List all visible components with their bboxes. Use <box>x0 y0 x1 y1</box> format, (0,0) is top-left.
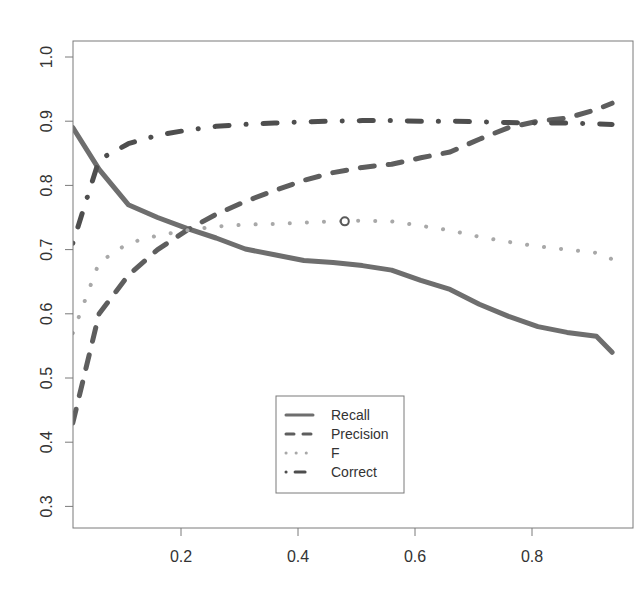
annotation-layer <box>341 217 349 225</box>
series-layer <box>73 103 612 423</box>
x-tick-label: 0.2 <box>170 548 192 565</box>
series-line-recall <box>73 128 612 353</box>
y-tick-label: 0.9 <box>38 110 55 132</box>
legend-label-precision: Precision <box>331 426 389 442</box>
y-tick-label: 0.4 <box>38 431 55 453</box>
series-line-f <box>73 221 612 333</box>
legend-label-correct: Correct <box>331 464 377 480</box>
x-axis: 0.20.40.60.8 <box>170 528 543 565</box>
y-tick-label: 0.3 <box>38 495 55 517</box>
x-tick-label: 0.4 <box>287 548 309 565</box>
y-tick-label: 0.5 <box>38 367 55 389</box>
legend-label-recall: Recall <box>331 407 370 423</box>
chart: 0.30.40.50.60.70.80.91.0 0.20.40.60.8 Re… <box>0 0 636 595</box>
y-tick-label: 0.7 <box>38 238 55 260</box>
legend: RecallPrecisionFCorrect <box>276 396 404 493</box>
legend-label-f: F <box>331 445 340 461</box>
y-tick-label: 0.6 <box>38 303 55 325</box>
x-tick-label: 0.8 <box>521 548 543 565</box>
y-tick-label: 1.0 <box>38 46 55 68</box>
y-axis: 0.30.40.50.60.70.80.91.0 <box>38 46 73 518</box>
y-tick-label: 0.8 <box>38 174 55 196</box>
open-circle-marker <box>341 217 349 225</box>
x-tick-label: 0.6 <box>404 548 426 565</box>
